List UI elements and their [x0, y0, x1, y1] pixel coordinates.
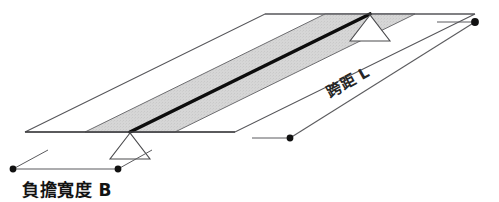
- dim-b-leader-left: [13, 150, 48, 169]
- label-tributary-width: 負擔寬度 B: [22, 180, 112, 200]
- dim-l-dot-lower: [287, 135, 294, 142]
- dim-b-dot-right: [115, 166, 122, 173]
- dim-b-dot-left: [10, 166, 17, 173]
- figure-container: 負擔寬度 B 跨距 L: [0, 0, 499, 202]
- dim-l-dot-upper: [471, 18, 479, 26]
- diagram-canvas: 負擔寬度 B 跨距 L: [0, 0, 499, 202]
- support-triangle-left: [110, 133, 150, 159]
